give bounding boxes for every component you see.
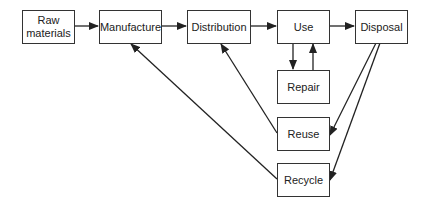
node-repair: Repair bbox=[277, 70, 330, 104]
arrow-disposal-to-recycle bbox=[330, 43, 380, 180]
node-disposal: Disposal bbox=[355, 10, 408, 44]
node-use: Use bbox=[277, 10, 330, 44]
arrow-reuse-to-distribution bbox=[221, 44, 277, 133]
node-manufacture-label: Manufacture bbox=[100, 21, 161, 34]
node-reuse-label: Reuse bbox=[288, 128, 320, 141]
node-recycle-label: Recycle bbox=[284, 174, 323, 187]
node-distribution: Distribution bbox=[187, 10, 251, 44]
arrow-recycle-to-manufacture bbox=[131, 44, 277, 179]
node-repair-label: Repair bbox=[287, 81, 319, 94]
node-recycle: Recycle bbox=[277, 163, 330, 197]
node-reuse: Reuse bbox=[277, 117, 330, 151]
node-use-label: Use bbox=[294, 21, 314, 34]
node-raw-materials-line2: materials bbox=[26, 27, 71, 40]
node-disposal-label: Disposal bbox=[360, 21, 402, 34]
node-manufacture: Manufacture bbox=[99, 10, 162, 44]
node-raw-materials-line1: Raw bbox=[37, 14, 59, 27]
arrow-disposal-to-reuse bbox=[330, 43, 376, 135]
node-raw-materials: Raw materials bbox=[22, 10, 75, 44]
node-distribution-label: Distribution bbox=[191, 21, 246, 34]
